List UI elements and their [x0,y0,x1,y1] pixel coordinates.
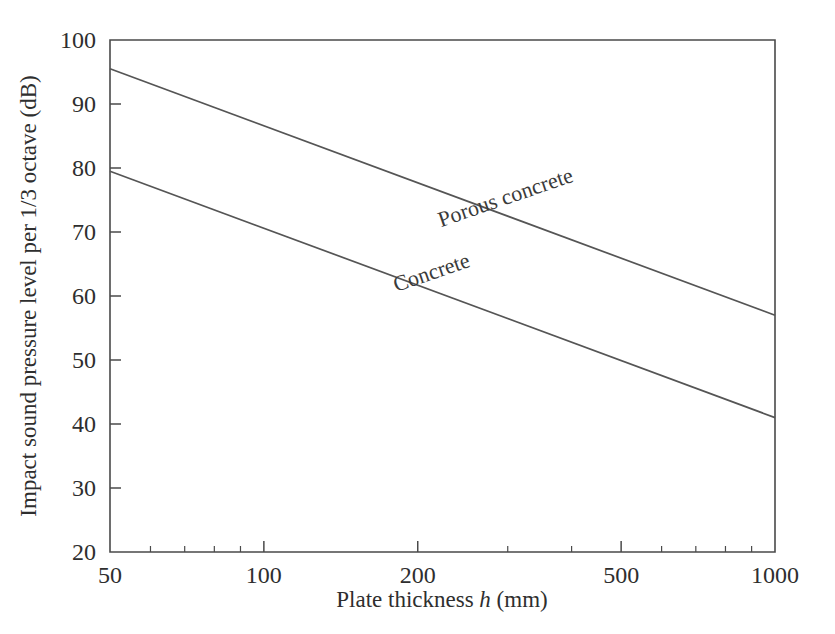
y-tick-label-50: 50 [72,347,96,373]
x-tick-label-100: 100 [246,562,282,588]
x-tick-label-200: 200 [400,562,436,588]
y-tick-label-70: 70 [72,219,96,245]
x-axis-title: Plate thickness h (mm) [336,587,547,612]
y-tick-label-60: 60 [72,283,96,309]
y-tick-label-100: 100 [60,27,96,53]
x-tick-label-1000: 1000 [751,562,799,588]
y-tick-label-20: 20 [72,539,96,565]
y-tick-label-40: 40 [72,411,96,437]
chart-background [0,0,835,634]
y-tick-label-80: 80 [72,155,96,181]
chart-figure: 2030405060708090100 501002005001000 Poro… [0,0,835,634]
x-tick-label-500: 500 [603,562,639,588]
line-chart-canvas: 2030405060708090100 501002005001000 Poro… [0,0,835,634]
x-axis-title-symbol: h [479,587,491,612]
y-axis-title: Impact sound pressure level per 1/3 octa… [16,75,41,516]
y-tick-label-90: 90 [72,91,96,117]
y-tick-label-30: 30 [72,475,96,501]
x-tick-label-50: 50 [98,562,122,588]
